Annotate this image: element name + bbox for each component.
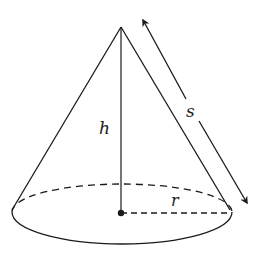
- slant-arrow-upper: [143, 20, 186, 99]
- center-point: [118, 210, 124, 216]
- cone-diagram: h s r: [0, 0, 266, 258]
- slant-arrow-lower: [199, 121, 247, 203]
- base-front-solid: [12, 212, 232, 244]
- base-back-dashed: [12, 184, 232, 212]
- label-height: h: [99, 118, 110, 138]
- cone-figure: h s r: [0, 0, 266, 258]
- label-slant-height: s: [186, 101, 195, 121]
- cone-right-side: [121, 27, 230, 210]
- label-radius: r: [171, 191, 180, 210]
